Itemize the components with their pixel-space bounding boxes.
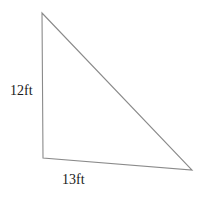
vertical-leg-length-label: 12ft bbox=[10, 84, 33, 98]
right-triangle-graphic bbox=[0, 0, 203, 199]
triangle-shape bbox=[42, 13, 192, 170]
horizontal-leg-length-label: 13ft bbox=[62, 173, 85, 187]
figure-canvas: 12ft 13ft bbox=[0, 0, 203, 199]
